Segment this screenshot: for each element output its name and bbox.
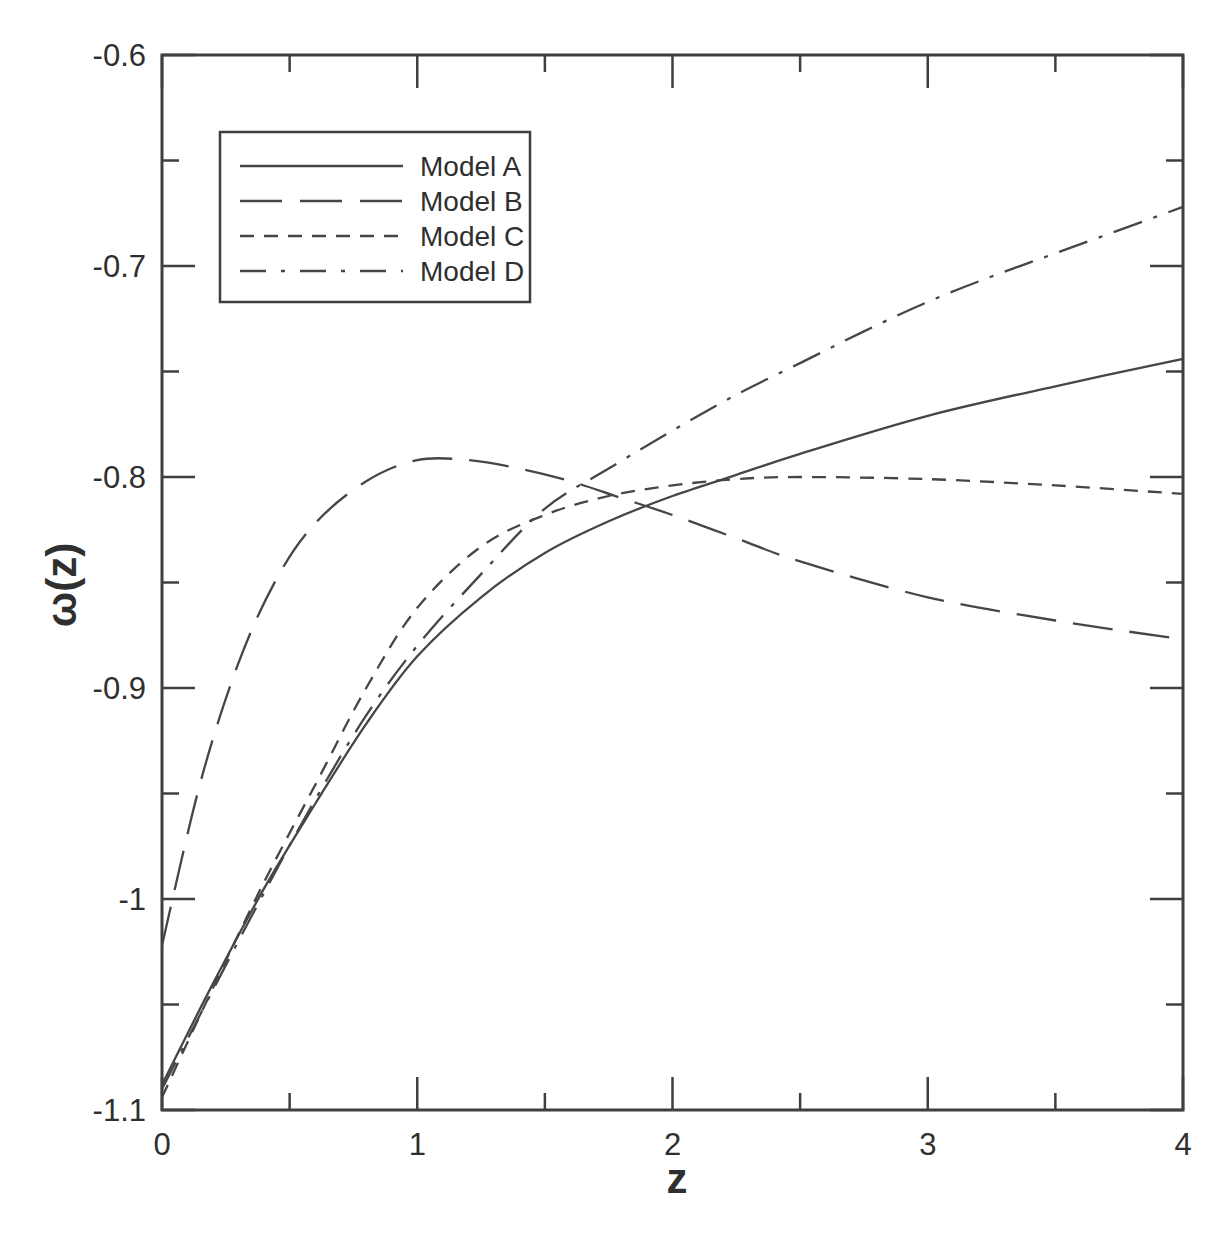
y-tick-label: -0.9 xyxy=(93,671,146,706)
scanned-figure-page: 01234-0.6-0.7-0.8-0.9-1-1.1 Model AModel… xyxy=(0,0,1224,1240)
y-tick-label: -1 xyxy=(118,882,146,917)
x-tick-label: 0 xyxy=(153,1127,170,1162)
legend-label: Model D xyxy=(420,256,524,287)
x-axis-title: z xyxy=(667,1155,688,1202)
x-tick-label: 4 xyxy=(1174,1127,1191,1162)
curve-model-b xyxy=(162,458,1183,945)
y-tick-label: -0.8 xyxy=(93,460,146,495)
legend-label: Model C xyxy=(420,221,524,252)
legend-label: Model B xyxy=(420,186,523,217)
x-tick-label: 1 xyxy=(409,1127,426,1162)
y-tick-label: -0.7 xyxy=(93,249,146,284)
x-tick-label: 3 xyxy=(919,1127,936,1162)
legend: Model AModel BModel CModel D xyxy=(220,132,530,302)
curve-model-c xyxy=(162,477,1183,1097)
curves xyxy=(162,207,1183,1097)
omega-z-line-chart: 01234-0.6-0.7-0.8-0.9-1-1.1 Model AModel… xyxy=(0,0,1224,1240)
y-tick-label: -1.1 xyxy=(93,1093,146,1128)
curve-model-d xyxy=(162,207,1183,1089)
curve-model-a xyxy=(162,359,1183,1085)
y-tick-label: -0.6 xyxy=(93,38,146,73)
legend-label: Model A xyxy=(420,151,521,182)
y-axis-title: ω(z) xyxy=(38,543,85,627)
